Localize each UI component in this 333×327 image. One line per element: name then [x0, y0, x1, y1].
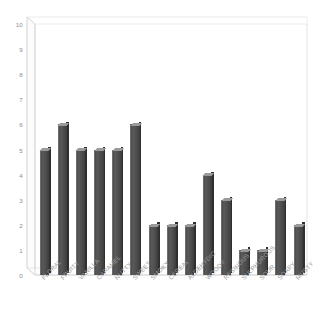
y-axis-labels: 012345678910 [6, 0, 23, 327]
bar-top-face [294, 224, 305, 227]
y-axis-tick-label: 8 [19, 71, 23, 78]
y-axis-tick-label: 7 [19, 96, 23, 103]
y-axis-tick-label: 6 [19, 121, 23, 128]
y-axis-tick-label: 0 [19, 272, 23, 279]
bar [76, 150, 87, 276]
bar [130, 124, 141, 275]
bar-front-face [130, 124, 140, 275]
y-axis-tick-label: 2 [19, 221, 23, 228]
y-axis-tick-label: 9 [19, 46, 23, 53]
bar [58, 124, 69, 275]
bar-chart: 012345678910 FLORALFRUITYVANILLACARAMELN… [0, 0, 333, 327]
bar-front-face [58, 124, 68, 275]
bar-top-face [149, 224, 160, 227]
bar-front-face [275, 200, 285, 275]
bar-front-face [76, 150, 86, 276]
y-axis-tick-label: 10 [16, 21, 23, 28]
y-axis-tick-label: 1 [19, 246, 23, 253]
bar-front-face [94, 150, 104, 276]
bar-top-face [167, 224, 178, 227]
bar [94, 150, 105, 276]
y-axis-tick-label: 5 [19, 146, 23, 153]
bar [275, 200, 286, 275]
y-axis-tick-label: 4 [19, 171, 23, 178]
bar [40, 150, 51, 276]
x-axis-labels: FLORALFRUITYVANILLACARAMELNUTTYSWEETSMOK… [35, 276, 307, 327]
bar-front-face [40, 150, 50, 276]
y-axis-tick-label: 3 [19, 196, 23, 203]
plot-area [35, 24, 307, 275]
